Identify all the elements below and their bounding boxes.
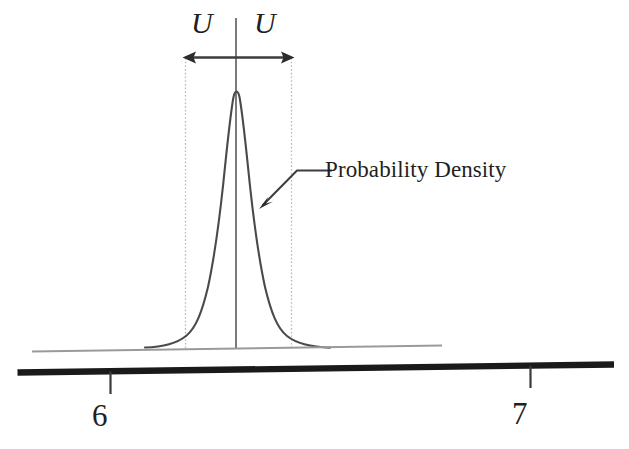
baseline-rule — [32, 346, 442, 352]
density-callout-leader — [259, 171, 332, 210]
interval-arrow — [183, 52, 295, 64]
interval-label-left: U — [191, 8, 213, 38]
scale-bar — [18, 365, 615, 373]
probability-density-figure: U U Probability Density 6 7 — [0, 0, 629, 449]
figure-drawing — [0, 0, 629, 449]
callout-arrowhead — [259, 197, 273, 209]
interval-label-right: U — [254, 8, 276, 38]
probability-density-label: Probability Density — [325, 158, 506, 181]
density-curve — [145, 92, 330, 348]
axis-tick-label-7: 7 — [512, 398, 528, 429]
axis-tick-label-6: 6 — [92, 400, 108, 431]
